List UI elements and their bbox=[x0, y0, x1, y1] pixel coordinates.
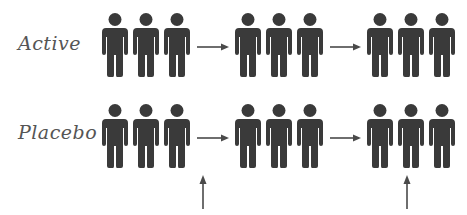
person-icon bbox=[398, 13, 424, 77]
arrow-right-icon bbox=[197, 133, 229, 143]
arrow-right-icon bbox=[330, 133, 361, 143]
person-icon bbox=[367, 13, 393, 77]
person-icon bbox=[133, 104, 159, 168]
arrow-right-icon bbox=[330, 42, 361, 52]
person-icon bbox=[429, 13, 455, 77]
person-icon bbox=[235, 104, 261, 168]
person-icon bbox=[164, 104, 190, 168]
person-icon bbox=[266, 104, 292, 168]
label-placebo: Placebo bbox=[18, 121, 97, 143]
person-icon bbox=[266, 13, 292, 77]
arrow-up-icon bbox=[198, 175, 208, 209]
person-icon bbox=[102, 13, 128, 77]
person-icon bbox=[297, 104, 323, 168]
person-icon bbox=[102, 104, 128, 168]
label-active: Active bbox=[18, 32, 81, 54]
person-icon bbox=[164, 13, 190, 77]
person-icon bbox=[398, 104, 424, 168]
person-icon bbox=[297, 13, 323, 77]
arrow-right-icon bbox=[197, 42, 229, 52]
arrow-up-icon bbox=[402, 175, 412, 209]
person-icon bbox=[133, 13, 159, 77]
person-icon bbox=[367, 104, 393, 168]
person-icon bbox=[235, 13, 261, 77]
person-icon bbox=[429, 104, 455, 168]
